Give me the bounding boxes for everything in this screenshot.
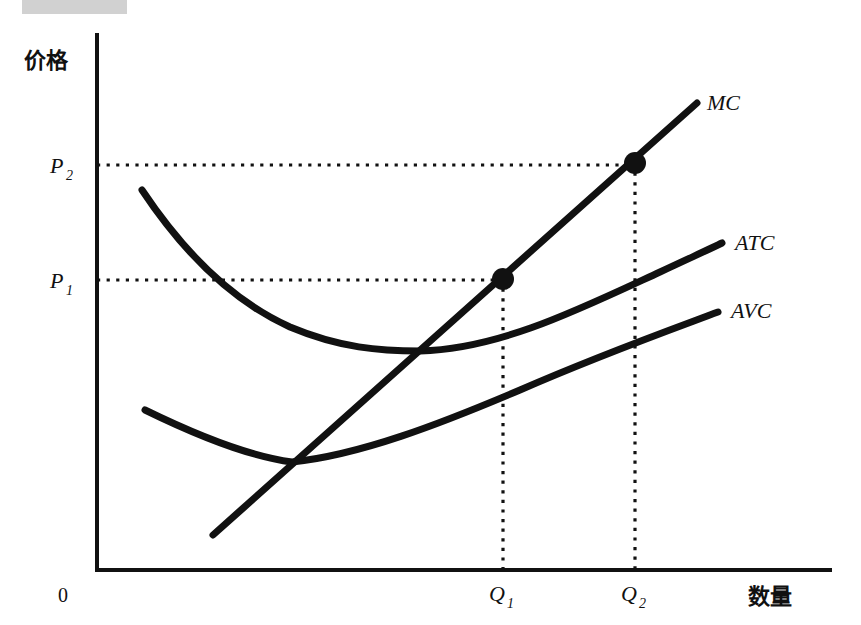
x-tick-label-q1: Q — [489, 581, 505, 606]
x-tick-label-q2: Q — [621, 581, 637, 606]
y-tick-sub-p1: 1 — [66, 283, 73, 298]
y-tick-sub-p2: 2 — [66, 168, 73, 183]
curve-label-atc: ATC — [733, 230, 775, 255]
x-tick-sub-q2: 2 — [639, 596, 646, 611]
y-axis-title: 价格 — [24, 48, 69, 73]
chart-page: 价格 数量 0 P 2 P 1 Q 1 Q 2 MC ATC AVC — [0, 0, 861, 625]
cost-curves-chart: 价格 数量 0 P 2 P 1 Q 1 Q 2 MC ATC AVC — [0, 0, 861, 625]
marker-point-p1-q1 — [492, 268, 514, 290]
x-tick-sub-q1: 1 — [507, 596, 514, 611]
curve-avc — [145, 312, 718, 462]
curve-label-avc: AVC — [729, 298, 772, 323]
curve-mc — [213, 103, 697, 535]
curve-label-mc: MC — [706, 90, 740, 115]
marker-point-p2-q2 — [624, 152, 646, 174]
y-tick-label-p1: P — [49, 268, 63, 293]
y-tick-label-p2: P — [49, 153, 63, 178]
origin-label: 0 — [58, 584, 68, 606]
x-axis-title: 数量 — [748, 584, 792, 609]
